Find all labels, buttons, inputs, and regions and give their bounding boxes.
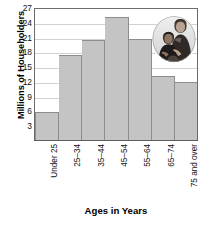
x-tick-cell: 75 and over bbox=[175, 142, 198, 200]
bar bbox=[129, 39, 152, 141]
photo-graphic bbox=[152, 16, 196, 65]
y-tick-label: 3 bbox=[14, 122, 32, 130]
y-tick-label: 15 bbox=[14, 63, 32, 71]
y-tick-label: 27 bbox=[14, 4, 32, 12]
y-tick-label: 24 bbox=[14, 19, 32, 27]
y-tick-label: 6 bbox=[14, 107, 32, 115]
x-axis-title: Ages in Years bbox=[34, 205, 198, 216]
x-tick-cell: 25–34 bbox=[57, 142, 80, 200]
bar bbox=[152, 76, 175, 141]
x-tick-cell: 65–74 bbox=[151, 142, 174, 200]
x-tick-cell: 45–54 bbox=[104, 142, 127, 200]
bar bbox=[82, 40, 105, 141]
x-tick-label: 75 and over bbox=[190, 144, 199, 187]
y-tick-label: 12 bbox=[14, 78, 32, 86]
bar bbox=[59, 55, 82, 141]
y-axis-tick-labels: 369121518212427 bbox=[14, 8, 32, 141]
x-tick-cell: Under 25 bbox=[34, 142, 57, 200]
bar bbox=[175, 82, 197, 141]
woman-and-child-photo bbox=[152, 16, 196, 65]
x-axis-tick-labels: Under 2525–3435–4445–5455–6465–7475 and … bbox=[34, 142, 198, 200]
y-tick-label: 21 bbox=[14, 34, 32, 42]
x-tick-cell: 35–44 bbox=[81, 142, 104, 200]
y-tick-label: 9 bbox=[14, 93, 32, 101]
bar bbox=[105, 17, 128, 141]
bar bbox=[35, 112, 59, 141]
x-tick-cell: 55–64 bbox=[128, 142, 151, 200]
histogram-figure: Millions of Householders 369121518212427… bbox=[0, 0, 205, 226]
y-tick-label: 18 bbox=[14, 48, 32, 56]
